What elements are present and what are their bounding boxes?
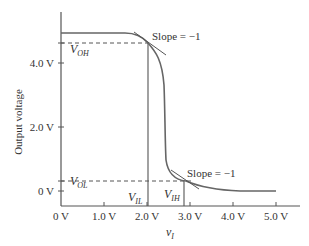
- y-axis-label: Output voltage: [12, 89, 24, 155]
- slope-annotation-bottom: Slope = −1: [187, 167, 235, 179]
- xtick-label: 4.0 V: [221, 210, 245, 222]
- voh-label: VOH: [70, 42, 90, 58]
- xtick-label: 5.0 V: [264, 210, 288, 222]
- ytick-label: 2.0 V: [30, 121, 54, 133]
- vih-label: VIH: [164, 187, 181, 203]
- transfer-curve: [61, 33, 276, 191]
- xtick-label: 0 V: [53, 210, 69, 222]
- slope-annotation-top: Slope = −1: [152, 30, 200, 42]
- vil-label: VIL: [128, 190, 143, 206]
- vol-label: VOL: [70, 174, 88, 190]
- xtick-label: 2.0 V: [135, 210, 159, 222]
- xtick-label: 1.0 V: [92, 210, 116, 222]
- x-axis-label: vI: [166, 225, 174, 241]
- ytick-label: 0 V: [38, 185, 54, 197]
- transfer-characteristic-chart: 4.0 V 2.0 V 0 V 0 V 1.0 V 2.0 V 3.0 V 4.…: [0, 0, 309, 246]
- xtick-label: 3.0 V: [178, 210, 202, 222]
- ytick-label: 4.0 V: [30, 57, 54, 69]
